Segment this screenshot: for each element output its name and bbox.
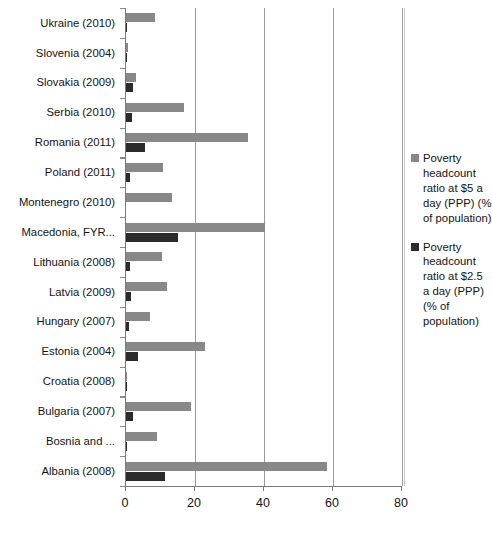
y-tick-mark [120, 8, 125, 9]
bar-row [126, 277, 401, 307]
category-label: Montenegro (2010) [0, 187, 121, 217]
bar-series-2-5usd [126, 442, 127, 451]
category-label: Albania (2008) [0, 456, 121, 486]
plot-area [125, 8, 401, 486]
bar-row [126, 367, 401, 397]
x-tick-mark [332, 486, 333, 491]
bar-series-2-5usd [126, 143, 145, 152]
bar-series-5usd [126, 252, 162, 261]
bar-row [126, 247, 401, 277]
bar-series-5usd [126, 73, 136, 82]
legend-label: Poverty headcount ratio at $5 a day (PPP… [423, 151, 492, 226]
bar-series-2-5usd [126, 262, 130, 271]
category-label: Ukraine (2010) [0, 8, 121, 38]
bar-series-2-5usd [126, 352, 138, 361]
legend-swatch-icon [411, 154, 419, 162]
x-tick-label: 80 [394, 496, 408, 510]
y-tick-mark [120, 367, 125, 368]
x-tick-label: 60 [325, 496, 339, 510]
category-label: Poland (2011) [0, 157, 121, 187]
x-tick-mark [401, 486, 402, 491]
bar-rows [126, 8, 401, 486]
legend-entry[interactable]: Poverty headcount ratio at $5 a day (PPP… [411, 151, 492, 226]
bar-series-2-5usd [126, 113, 132, 122]
legend-label: Poverty headcount ratio at $2.5 a day (P… [423, 240, 492, 329]
bar-series-2-5usd [126, 53, 127, 62]
bar-series-5usd [126, 193, 172, 202]
bar-series-5usd [126, 402, 191, 411]
category-label: Slovakia (2009) [0, 68, 121, 98]
bar-row [126, 157, 401, 187]
category-axis: Ukraine (2010)Slovenia (2004)Slovakia (2… [0, 8, 121, 486]
category-label: Bulgaria (2007) [0, 396, 121, 426]
y-tick-mark [120, 217, 125, 218]
category-label: Estonia (2004) [0, 337, 121, 367]
legend-swatch-icon [411, 243, 419, 251]
y-tick-mark [120, 128, 125, 129]
x-tick-mark [125, 486, 126, 491]
category-label: Bosnia and ... [0, 426, 121, 456]
bar-series-5usd [126, 282, 167, 291]
category-label: Romania (2011) [0, 128, 121, 158]
bar-series-5usd [126, 163, 163, 172]
bar-series-2-5usd [126, 173, 130, 182]
bar-row [126, 396, 401, 426]
bar-series-2-5usd [126, 233, 178, 242]
x-tick-label: 20 [187, 496, 201, 510]
bar-series-5usd [126, 432, 157, 441]
bar-row [126, 68, 401, 98]
y-tick-mark [120, 396, 125, 397]
bar-series-2-5usd [126, 23, 127, 32]
y-tick-mark [120, 98, 125, 99]
gridline [402, 8, 403, 486]
category-label: Latvia (2009) [0, 277, 121, 307]
category-label: Croatia (2008) [0, 367, 121, 397]
y-tick-mark [120, 247, 125, 248]
bar-row [126, 38, 401, 68]
category-label: Serbia (2010) [0, 98, 121, 128]
bar-row [126, 128, 401, 158]
y-tick-mark [120, 187, 125, 188]
y-tick-mark [120, 38, 125, 39]
legend-entry[interactable]: Poverty headcount ratio at $2.5 a day (P… [411, 240, 492, 329]
y-tick-mark [120, 307, 125, 308]
y-tick-mark [120, 456, 125, 457]
bar-row [126, 217, 401, 247]
bar-row [126, 307, 401, 337]
y-tick-mark [120, 337, 125, 338]
y-tick-mark [120, 426, 125, 427]
y-tick-mark [120, 157, 125, 158]
bar-series-5usd [126, 462, 327, 471]
bar-row [126, 98, 401, 128]
category-label: Lithuania (2008) [0, 247, 121, 277]
bar-series-2-5usd [126, 83, 133, 92]
category-label: Slovenia (2004) [0, 38, 121, 68]
bar-row [126, 187, 401, 217]
bar-row [126, 456, 401, 486]
y-tick-mark [120, 486, 125, 487]
bar-series-5usd [126, 133, 248, 142]
bar-series-5usd [126, 13, 155, 22]
x-tick-label: 40 [256, 496, 270, 510]
chart-legend: Poverty headcount ratio at $5 a day (PPP… [404, 8, 492, 486]
bar-series-5usd [126, 312, 150, 321]
bar-row [126, 8, 401, 38]
bar-series-2-5usd [126, 412, 133, 421]
category-label: Hungary (2007) [0, 307, 121, 337]
bar-series-5usd [126, 223, 265, 232]
bar-series-5usd [126, 103, 184, 112]
bar-series-2-5usd [126, 472, 165, 481]
x-tick-mark [263, 486, 264, 491]
bar-series-2-5usd [126, 292, 131, 301]
x-tick-mark [194, 486, 195, 491]
bar-row [126, 337, 401, 367]
x-tick-label: 0 [122, 496, 129, 510]
bar-series-2-5usd [126, 322, 129, 331]
bar-series-5usd [126, 342, 205, 351]
bar-row [126, 426, 401, 456]
category-label: Macedonia, FYR... [0, 217, 121, 247]
y-tick-mark [120, 277, 125, 278]
bar-series-5usd [126, 372, 127, 381]
bar-series-5usd [126, 43, 128, 52]
y-tick-mark [120, 68, 125, 69]
